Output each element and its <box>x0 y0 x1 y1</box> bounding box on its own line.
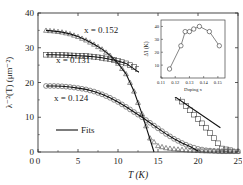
data-point <box>208 130 213 135</box>
inset-y-tick-label: 40 <box>154 24 159 29</box>
inset-data-point <box>167 67 171 71</box>
data-point <box>160 144 165 148</box>
inset-x-tick-label: 0.12 <box>171 80 180 85</box>
x-tick-label: 25 <box>234 156 243 166</box>
data-point <box>164 145 169 149</box>
inset-y-tick-label: 10 <box>154 63 159 68</box>
y-tick-label: 20 <box>25 78 35 88</box>
label-x-0131: x = 0.131 <box>56 55 90 65</box>
data-point <box>216 141 221 146</box>
inset-data-point <box>197 24 201 28</box>
main-chart: 05101520250102030400T (K)λ⁻²(T) (μm⁻²)x … <box>0 0 242 185</box>
x-tick-label: 10 <box>114 156 124 166</box>
inset-data-point <box>183 29 187 33</box>
inset-data-point <box>192 27 196 31</box>
x-tick-label: 20 <box>194 156 204 166</box>
x-tick-label: 5 <box>76 156 81 166</box>
inset-data-point <box>207 29 211 33</box>
inset-data-point <box>179 44 183 48</box>
inset-y-axis-label: Δ'l (K) <box>143 41 150 56</box>
inset-x-axis-label: Doping x <box>184 87 203 92</box>
label-x-0152: x = 0.152 <box>84 25 118 35</box>
x-tick-label: 15 <box>154 156 164 166</box>
inset-x-tick-label: 0.13 <box>185 80 194 85</box>
figure: 05101520250102030400T (K)λ⁻²(T) (μm⁻²)x … <box>0 0 242 185</box>
x-tick-label: 0 <box>36 156 41 166</box>
inset-background <box>139 17 229 97</box>
label-x-0124: x = 0.124 <box>54 93 89 103</box>
data-point <box>212 136 217 141</box>
inset-y-tick-label: 30 <box>154 37 159 42</box>
y-tick-label: 30 <box>25 43 35 53</box>
inset-y-tick-label: 20 <box>154 50 159 55</box>
y-tick-label: 10 <box>25 112 35 122</box>
inset-data-point <box>187 29 191 33</box>
y-tick-label: 40 <box>25 8 35 18</box>
inset-x-tick-label: 0.11 <box>157 80 166 85</box>
legend-fits-label: Fits <box>81 125 95 135</box>
x-axis-label: T (K) <box>128 170 148 181</box>
y-axis-label: λ⁻²(T) (μm⁻²) <box>4 57 14 108</box>
inset-x-tick-label: 0.14 <box>200 80 209 85</box>
inset-x-tick-label: 0.15 <box>214 80 223 85</box>
inset-data-point <box>217 44 221 48</box>
origin-label: 0 <box>30 156 35 166</box>
